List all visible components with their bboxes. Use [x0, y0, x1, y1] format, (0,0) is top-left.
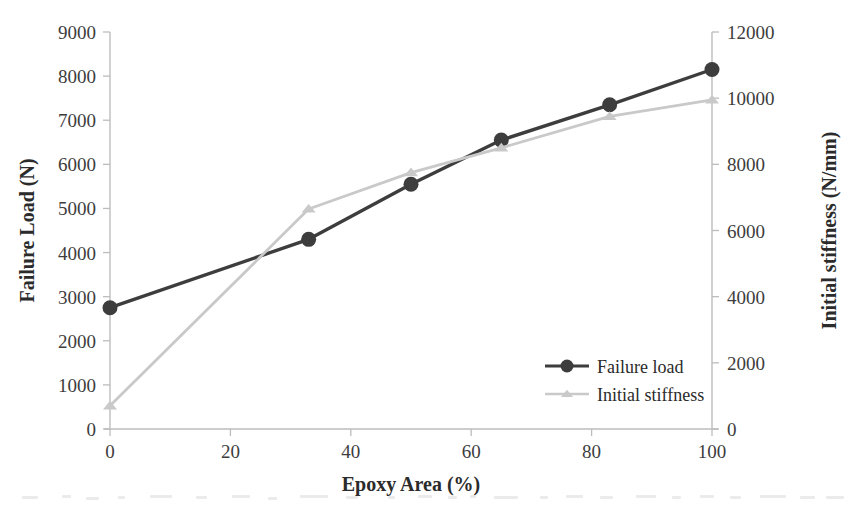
y-axis-left-tick-label: 8000 [58, 66, 96, 87]
y-axis-right-tick-label: 8000 [727, 154, 765, 175]
x-axis-tick-label: 0 [105, 441, 115, 462]
data-point-marker-circle [404, 177, 419, 192]
y-axis-left-title: Failure Load (N) [16, 158, 39, 302]
y-axis-left-tick-label: 9000 [58, 22, 96, 43]
scan-smudge [448, 496, 457, 499]
scan-smudge [672, 496, 681, 499]
y-axis-right-tick-label: 10000 [727, 88, 775, 109]
scan-smudge [700, 495, 714, 498]
scan-smudge [150, 495, 172, 498]
y-axis-right-tick-label: 6000 [727, 221, 765, 242]
y-axis-left-tick-label: 0 [87, 419, 97, 440]
scan-smudge [470, 495, 476, 498]
data-point-marker-circle [602, 97, 617, 112]
scan-smudge [600, 496, 613, 499]
data-point-marker-circle [301, 232, 316, 247]
scan-smudge [388, 496, 395, 499]
x-axis-tick-label: 60 [462, 441, 481, 462]
y-axis-left-tick-label: 7000 [58, 110, 96, 131]
legend-label: Initial stiffness [597, 385, 704, 405]
x-axis-tick-label: 40 [341, 441, 360, 462]
y-axis-left-tick-label: 3000 [58, 287, 96, 308]
chart-figure: 0100020003000400050006000700080009000 02… [0, 0, 863, 517]
y-axis-left-tick-label: 2000 [58, 331, 96, 352]
y-axis-right-tick-label: 0 [727, 419, 737, 440]
scan-smudge [730, 496, 741, 499]
x-axis-title: Epoxy Area (%) [342, 473, 481, 496]
y-axis-left-tick-label: 6000 [58, 154, 96, 175]
scan-smudge [86, 497, 99, 500]
y-axis-right-tick-label: 4000 [727, 287, 765, 308]
data-point-marker-circle [103, 300, 118, 315]
scan-smudge [232, 495, 250, 498]
y-axis-left-tick-label: 4000 [58, 243, 96, 264]
scan-smudge [540, 496, 548, 499]
y-axis-right-tick-label: 12000 [727, 22, 775, 43]
y-axis-right-title: Initial stiffness (N/mm) [818, 132, 841, 330]
y-axis-right-tick-label: 2000 [727, 353, 765, 374]
chart-canvas: 0100020003000400050006000700080009000 02… [0, 0, 863, 517]
data-point-marker-circle [705, 62, 720, 77]
y-axis-left-tick-label: 5000 [58, 198, 96, 219]
scan-smudge [196, 496, 207, 499]
scan-smudge [418, 495, 432, 498]
scan-smudge [300, 495, 328, 498]
x-axis-tick-label: 80 [582, 441, 601, 462]
scan-smudge [760, 495, 786, 498]
legend-label: Failure load [597, 357, 683, 377]
scan-smudge [62, 495, 71, 498]
x-axis-tick-label: 20 [221, 441, 240, 462]
y-axis-left-tick-label: 1000 [58, 375, 96, 396]
scan-smudge [800, 496, 815, 499]
scan-smudge [566, 495, 583, 498]
scan-smudge [346, 496, 358, 499]
scan-smudge [494, 496, 518, 499]
scan-smudge [118, 496, 125, 499]
x-axis-tick-label: 100 [698, 441, 727, 462]
scan-smudge [268, 497, 277, 500]
scan-smudge [22, 496, 38, 499]
scan-smudge [636, 495, 656, 498]
data-point-marker-circle [561, 360, 574, 373]
scan-smudge [826, 496, 844, 499]
